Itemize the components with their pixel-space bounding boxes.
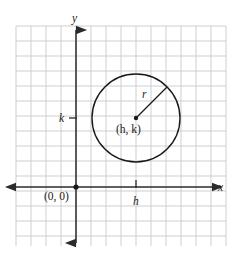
circle-center-dot (134, 116, 138, 120)
figure-canvas: x y (0, 0) (h, k) r h k (0, 0, 244, 265)
coordinate-plane-diagram: x y (0, 0) (h, k) r h k (0, 0, 244, 265)
grid-lines (16, 26, 226, 246)
tick-label-k: k (59, 112, 65, 124)
origin-label: (0, 0) (44, 190, 69, 203)
origin-dot (73, 184, 78, 189)
radius-line (136, 87, 167, 118)
axes-group (16, 30, 212, 243)
tick-label-h: h (133, 195, 139, 207)
x-axis-label: x (217, 181, 224, 193)
radius-label: r (142, 88, 147, 100)
circle-center-label: (h, k) (116, 123, 141, 136)
y-axis-label: y (71, 12, 78, 25)
